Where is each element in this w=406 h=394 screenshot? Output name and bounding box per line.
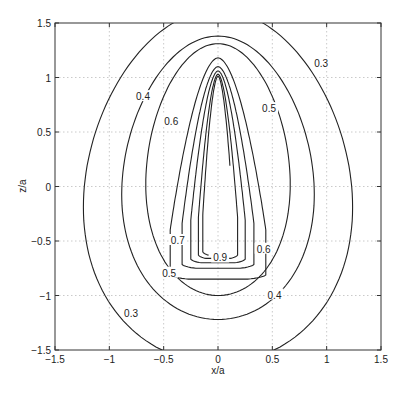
- x-tick-label: 1: [324, 354, 330, 365]
- y-tick-label: 1.5: [37, 18, 51, 29]
- contour-labels: 0.30.40.50.60.70.90.60.50.40.3: [122, 57, 330, 319]
- contour-label: 0.5: [262, 103, 276, 114]
- contour-line-0.4: [122, 36, 315, 319]
- x-tick-label: 0.5: [265, 354, 279, 365]
- y-tick-label: 0.5: [37, 127, 51, 138]
- y-tick-label: −0.5: [31, 236, 51, 247]
- contour-label: 0.4: [136, 91, 150, 102]
- contour-line-0.9: [198, 74, 237, 258]
- y-tick-label: 1: [45, 73, 51, 84]
- x-tick-label: −1: [104, 354, 116, 365]
- contour-plot: 0.30.40.50.60.70.90.60.50.40.3 −1.5−1−0.…: [0, 0, 406, 394]
- y-tick-label: −1.5: [31, 345, 51, 356]
- contour-label: 0.3: [314, 58, 328, 69]
- y-tick-label: −1: [40, 291, 52, 302]
- contour-label: 0.3: [124, 308, 138, 319]
- x-tick-label: −0.5: [154, 354, 174, 365]
- x-tick-label: 0: [215, 354, 221, 365]
- x-tick-label: 1.5: [374, 354, 388, 365]
- y-axis-label: z/a: [17, 179, 28, 193]
- grid-lines: [55, 23, 381, 350]
- contour-label: 0.5: [162, 268, 176, 279]
- contour-label: 0.4: [268, 290, 282, 301]
- contour-label: 0.6: [164, 116, 178, 127]
- contour-label: 0.7: [171, 235, 185, 246]
- y-tick-label: 0: [45, 182, 51, 193]
- contour-label: 0.9: [213, 252, 227, 263]
- contour-label: 0.6: [257, 244, 271, 255]
- x-axis-label: x/a: [211, 365, 225, 376]
- axis-ticks: −1.5−1−0.500.511.5−1.5−1−0.500.511.5: [31, 18, 388, 365]
